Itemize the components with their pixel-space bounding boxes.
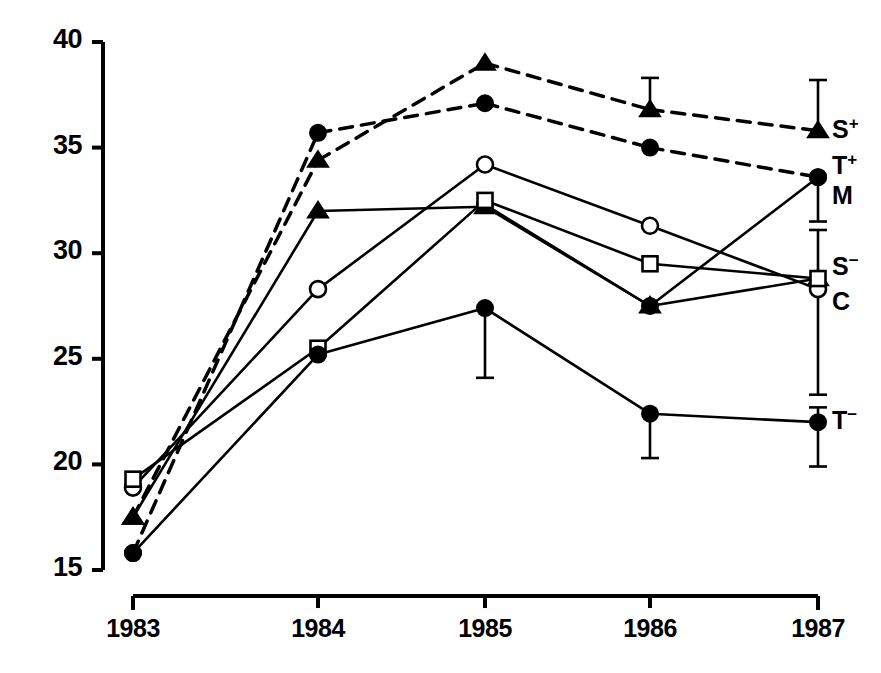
y-axis-tick-label: 25 xyxy=(12,341,82,372)
series-line-S+ xyxy=(650,110,818,131)
series-line-open-square xyxy=(133,348,318,479)
series-line-S- xyxy=(133,211,318,517)
x-axis-tick-label: 1986 xyxy=(600,614,700,643)
data-point-marker-open-square xyxy=(126,472,141,487)
series-label-superscript: − xyxy=(847,405,857,424)
data-point-marker-M xyxy=(810,169,826,185)
series-label-text: T xyxy=(832,406,847,434)
data-point-marker-open-square xyxy=(478,193,493,208)
data-point-marker-T+ xyxy=(310,125,326,141)
data-point-marker-T+ xyxy=(642,140,658,156)
line-chart: 403530252015 19831984198519861987 S+T+MS… xyxy=(0,0,881,673)
x-axis-tick-label: 1983 xyxy=(83,614,183,643)
series-label-S-: S− xyxy=(832,251,859,281)
x-axis-tick-label: 1985 xyxy=(435,614,535,643)
data-point-marker-T- xyxy=(310,347,326,363)
series-line-S+ xyxy=(485,63,650,109)
series-label-M: M xyxy=(832,181,853,210)
y-axis-tick-label: 35 xyxy=(12,130,82,161)
series-label-text: M xyxy=(832,181,853,209)
series-line-S+ xyxy=(133,160,318,517)
series-label-C: C xyxy=(832,287,850,316)
data-point-marker-S+ xyxy=(308,151,329,167)
series-layer xyxy=(133,63,818,553)
series-label-text: T xyxy=(832,151,847,179)
y-axis-tick-label: 20 xyxy=(12,446,82,477)
series-line-open-square xyxy=(318,200,485,348)
series-line-S- xyxy=(485,207,650,306)
series-line-C xyxy=(133,289,318,488)
y-axis-tick-label: 30 xyxy=(12,235,82,266)
x-axis-tick-label: 1987 xyxy=(768,614,868,643)
data-point-marker-S- xyxy=(123,508,144,524)
series-line-T- xyxy=(650,414,818,422)
plot-area xyxy=(0,0,881,673)
series-line-M xyxy=(650,177,818,306)
x-axis-tick-label: 1984 xyxy=(268,614,368,643)
series-line-C xyxy=(650,226,818,289)
data-point-marker-T- xyxy=(642,406,658,422)
series-line-T+ xyxy=(318,103,485,133)
series-line-open-square xyxy=(650,264,818,279)
data-point-marker-S+ xyxy=(475,54,496,70)
data-point-marker-C xyxy=(477,156,493,172)
series-label-superscript: + xyxy=(849,114,859,133)
data-point-marker-T- xyxy=(125,545,141,561)
series-line-S+ xyxy=(318,63,485,160)
series-label-text: S xyxy=(832,252,849,280)
series-line-C xyxy=(485,164,650,225)
series-label-superscript: + xyxy=(847,150,857,169)
data-point-marker-T- xyxy=(810,414,826,430)
y-axis-tick-label: 40 xyxy=(12,24,82,55)
series-label-superscript: − xyxy=(849,251,859,270)
data-point-marker-T+ xyxy=(477,95,493,111)
series-line-S- xyxy=(650,279,818,306)
series-label-T-: T− xyxy=(832,405,857,435)
series-line-T+ xyxy=(650,148,818,178)
y-axis-tick-label: 15 xyxy=(12,552,82,583)
markers-layer xyxy=(123,54,829,561)
series-label-text: C xyxy=(832,287,850,315)
series-line-S- xyxy=(318,207,485,211)
series-label-S+: S+ xyxy=(832,114,859,144)
data-point-marker-C xyxy=(310,281,326,297)
data-point-marker-C xyxy=(642,218,658,234)
series-line-T- xyxy=(318,308,485,354)
data-point-marker-open-square xyxy=(811,271,826,286)
series-line-T- xyxy=(485,308,650,414)
series-line-T+ xyxy=(485,103,650,147)
series-label-T+: T+ xyxy=(832,150,857,180)
axes-layer xyxy=(92,42,818,610)
series-line-T- xyxy=(133,355,318,554)
series-line-C xyxy=(318,164,485,289)
series-line-T+ xyxy=(133,133,318,553)
data-point-marker-T- xyxy=(477,300,493,316)
series-label-text: S xyxy=(832,115,849,143)
data-point-marker-open-square xyxy=(643,256,658,271)
